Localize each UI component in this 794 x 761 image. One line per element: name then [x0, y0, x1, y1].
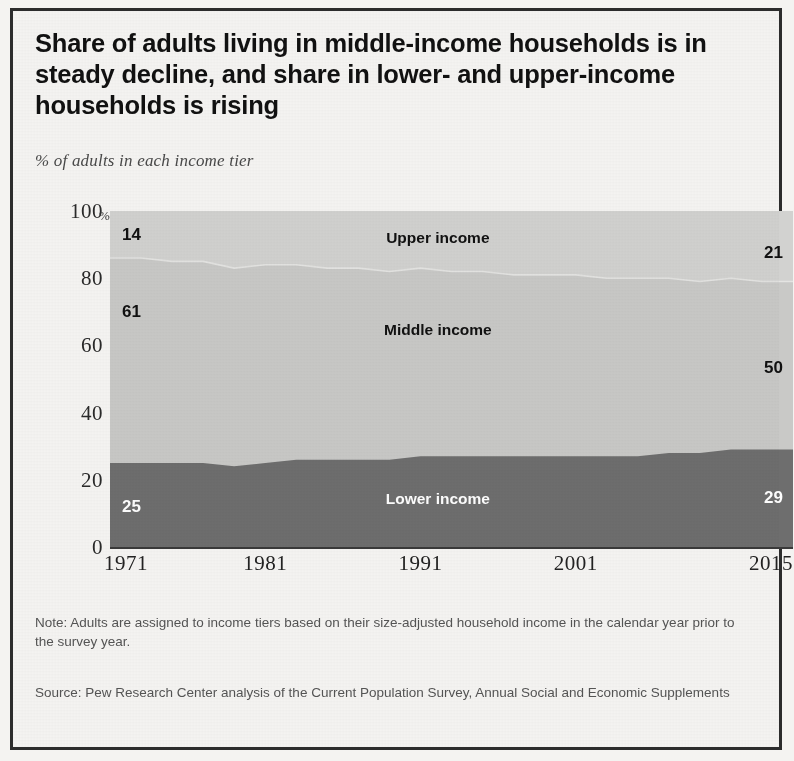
chart-subtitle: % of adults in each income tier	[35, 151, 254, 171]
x-axis-tick-2015: 2015	[749, 551, 793, 576]
chart-note: Note: Adults are assigned to income tier…	[35, 613, 751, 651]
plot-area: 142161502529Upper incomeMiddle incomeLow…	[110, 211, 793, 547]
x-axis-line	[110, 547, 793, 549]
page-title: Share of adults living in middle-income …	[35, 28, 753, 121]
chart-page: Share of adults living in middle-income …	[0, 0, 794, 761]
x-axis-tick-1971: 1971	[104, 551, 148, 576]
y-axis-tick-40: 40	[35, 400, 103, 425]
chart-source: Source: Pew Research Center analysis of …	[35, 683, 751, 702]
y-axis-labels: 100%806040200	[35, 199, 103, 559]
y-axis-tick-20: 20	[35, 467, 103, 492]
upper-start-value: 14	[122, 225, 141, 245]
middle-income-area	[110, 258, 793, 466]
y-axis-tick-100: 100	[35, 199, 103, 224]
upper-end-value: 21	[764, 243, 783, 263]
lower-income-series-label: Lower income	[386, 490, 490, 508]
middle-end-value: 50	[764, 358, 783, 378]
lower-start-value: 25	[122, 497, 141, 517]
middle-income-series-label: Middle income	[384, 321, 492, 339]
stacked-area-chart: 100%806040200 142161502529Upper incomeMi…	[35, 199, 763, 574]
x-axis-labels: 19711981199120012015	[35, 551, 763, 581]
chart-frame: Share of adults living in middle-income …	[10, 8, 782, 750]
y-axis-percent-sign: %	[99, 208, 110, 224]
x-axis-tick-2001: 2001	[554, 551, 598, 576]
upper-income-series-label: Upper income	[386, 229, 489, 247]
y-axis-tick-80: 80	[35, 266, 103, 291]
x-axis-tick-1991: 1991	[398, 551, 442, 576]
lower-end-value: 29	[764, 488, 783, 508]
x-axis-tick-1981: 1981	[243, 551, 287, 576]
middle-start-value: 61	[122, 302, 141, 322]
y-axis-tick-60: 60	[35, 333, 103, 358]
